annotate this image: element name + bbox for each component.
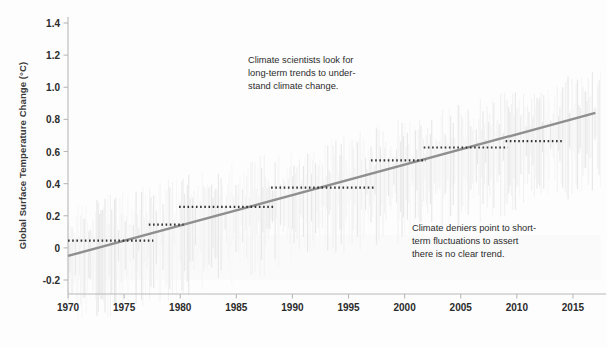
noise-bar: [572, 78, 573, 194]
noise-bar: [461, 115, 462, 212]
noise-bar: [524, 107, 525, 184]
noise-bar: [424, 154, 425, 180]
noise-bar: [229, 174, 230, 272]
y-axis-tick-label: 0.4: [20, 178, 60, 189]
noise-bar: [318, 166, 319, 228]
noise-bar: [472, 130, 473, 183]
noise-bar: [323, 179, 324, 206]
noise-bar: [447, 143, 448, 180]
noise-bar: [580, 108, 581, 148]
noise-bar: [281, 187, 282, 222]
noise-bar: [407, 133, 408, 220]
noise-bar: [131, 210, 132, 282]
noise-bar: [261, 168, 262, 260]
noise-bar: [118, 230, 119, 261]
noise-bar: [106, 223, 107, 278]
noise-bar: [287, 169, 288, 243]
noise-bar: [107, 194, 108, 317]
noise-bar: [215, 189, 216, 260]
noise-bar: [442, 110, 443, 230]
noise-bar: [136, 192, 137, 304]
noise-bar: [460, 122, 461, 202]
noise-bar: [163, 204, 164, 270]
noise-bar: [446, 137, 447, 191]
y-axis-tick-label: 0.8: [20, 114, 60, 125]
noise-bar: [121, 213, 122, 282]
noise-bar: [387, 162, 388, 192]
noise-bar: [360, 132, 361, 250]
noise-bar: [284, 182, 285, 226]
noise-bar: [123, 214, 124, 280]
noise-bar: [573, 108, 574, 152]
noise-bar: [187, 185, 188, 281]
noise-bar: [150, 197, 151, 286]
noise-bar: [304, 158, 305, 248]
noise-bar: [581, 77, 582, 191]
noise-bar: [219, 198, 220, 245]
noise-bar: [505, 100, 506, 205]
noise-bar: [338, 173, 339, 205]
noise-bar: [576, 83, 577, 185]
noise-bar: [164, 213, 165, 256]
noise-bar: [500, 94, 501, 217]
noise-bar: [71, 227, 72, 295]
noise-bar: [84, 219, 85, 298]
noise-bar: [194, 190, 195, 270]
noise-bar: [385, 142, 386, 221]
noise-bar: [169, 187, 170, 289]
noise-bar: [478, 119, 479, 196]
noise-bar: [244, 173, 245, 263]
noise-bar: [327, 146, 328, 251]
noise-bar: [497, 120, 498, 183]
noise-bar: [188, 175, 189, 295]
noise-bar: [102, 210, 103, 299]
noise-bar: [346, 161, 347, 217]
noise-bar: [285, 185, 286, 220]
noise-bar: [252, 162, 253, 275]
noise-bar: [329, 171, 330, 215]
chart-figure: Global Surface Temperature Change (°C) 1…: [0, 0, 607, 348]
noise-bar: [250, 162, 251, 275]
noise-bar: [488, 122, 489, 186]
noise-bar: [376, 128, 377, 244]
noise-bar: [520, 115, 521, 174]
noise-bar: [531, 99, 532, 191]
noise-bar: [522, 114, 523, 176]
noise-bar: [269, 187, 270, 229]
noise-bar: [91, 231, 92, 278]
noise-bar: [208, 188, 209, 265]
noise-bar: [508, 107, 509, 193]
noise-bar: [345, 159, 346, 222]
noise-bar: [310, 156, 311, 248]
noise-bar: [545, 109, 546, 168]
noise-bar: [190, 198, 191, 261]
noise-bar: [307, 154, 308, 252]
noise-bar: [200, 201, 201, 251]
noise-bar: [198, 185, 199, 275]
noise-bar: [195, 208, 196, 245]
noise-bar: [410, 121, 411, 234]
noise-bar: [408, 144, 409, 203]
noise-bar: [473, 119, 474, 199]
noise-bar: [334, 155, 335, 233]
noise-bar: [482, 111, 483, 204]
noise-bar: [487, 106, 488, 207]
noise-bar: [273, 191, 274, 220]
noise-bar: [149, 189, 150, 300]
noise-bar: [330, 174, 331, 210]
noise-bar: [226, 196, 227, 242]
noise-bar: [569, 113, 570, 147]
x-axis-tick-label: 2015: [543, 302, 603, 313]
noise-bar: [516, 108, 517, 186]
noise-bar: [231, 163, 232, 284]
noise-bar: [233, 196, 234, 239]
noise-bar: [223, 204, 224, 232]
noise-bar: [380, 147, 381, 216]
noise-bar: [203, 185, 204, 271]
noise-bar: [127, 197, 128, 301]
noise-bar: [92, 220, 93, 291]
noise-bar: [221, 178, 222, 270]
noise-bar: [99, 214, 100, 295]
noise-bar: [600, 71, 601, 187]
noise-bar: [133, 225, 134, 259]
